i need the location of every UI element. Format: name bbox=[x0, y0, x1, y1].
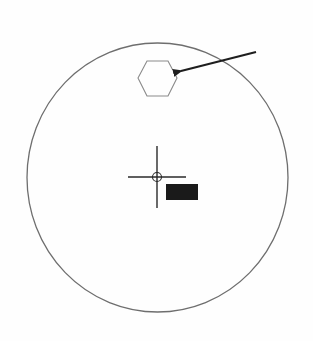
label-box bbox=[166, 184, 198, 200]
diagram-canvas bbox=[0, 0, 313, 341]
